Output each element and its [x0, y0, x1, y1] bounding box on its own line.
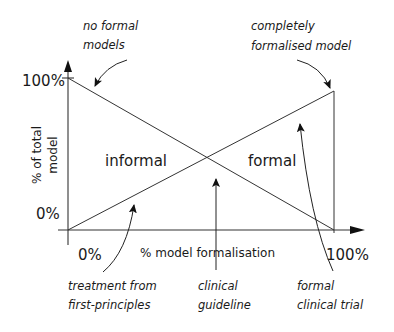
- annotation-text: formalised model: [251, 39, 352, 53]
- x-axis-arrow-icon: [350, 226, 365, 234]
- annotation-no-formal-models: no formal models: [83, 19, 139, 86]
- y-axis-title: % of total model: [30, 126, 60, 184]
- y-tick-label-0: 0%: [36, 205, 60, 223]
- annotation-text: formal: [297, 279, 335, 293]
- annotation-text: treatment from: [68, 279, 157, 293]
- annotation-text: guideline: [198, 298, 251, 312]
- formalisation-diagram: 100% 0% 0% 100% % model formalisation % …: [0, 0, 394, 332]
- annotation-completely-formalised: completely formalised model: [251, 19, 352, 88]
- pointer-arrow-icon: [95, 60, 127, 86]
- region-label-formal: formal: [248, 152, 296, 170]
- annotation-formal-clinical-trial: formal clinical trial: [297, 124, 364, 312]
- x-tick-label-100: 100%: [326, 246, 369, 264]
- annotation-text: first-principles: [68, 298, 150, 312]
- y-tick-label-100: 100%: [22, 72, 65, 90]
- x-axis-title: % model formalisation: [140, 246, 275, 260]
- region-label-informal: informal: [105, 152, 167, 170]
- x-tick-label-0: 0%: [78, 246, 102, 264]
- annotation-text: clinical trial: [297, 298, 364, 312]
- y-axis-title-line1: % of total: [30, 126, 44, 184]
- y-axis-title-line2: model: [46, 136, 60, 173]
- annotation-text: models: [83, 38, 125, 52]
- annotation-text: clinical: [198, 279, 239, 293]
- pointer-arrow-icon: [297, 60, 330, 88]
- y-axis-arrow-icon: [64, 60, 72, 72]
- annotation-text: no formal: [83, 19, 139, 33]
- pointer-arrow-icon: [103, 205, 134, 272]
- annotation-text: completely: [251, 19, 315, 33]
